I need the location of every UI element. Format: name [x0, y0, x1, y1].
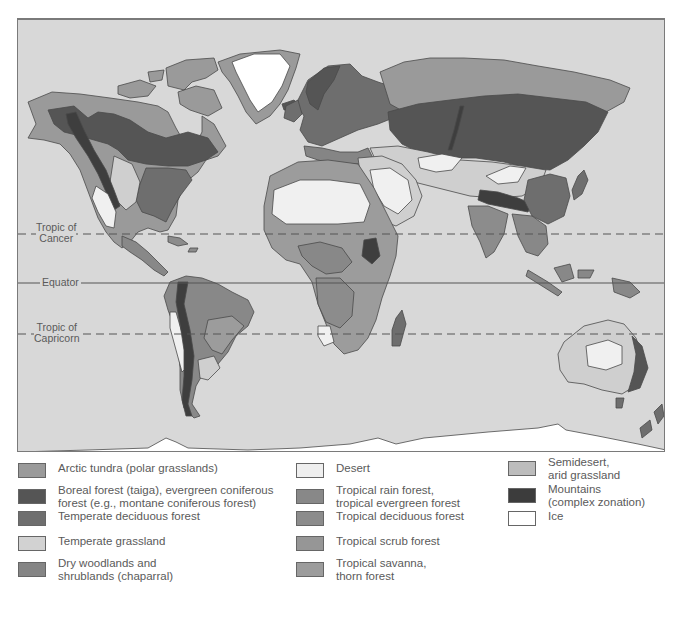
- swatch-arctic-tundra: [18, 463, 46, 478]
- antarctica: [18, 424, 665, 452]
- legend-semidesert: Semidesert, arid grassland: [508, 456, 620, 481]
- legend-tropical-scrub-forest: Tropical scrub forest: [296, 535, 440, 551]
- world-biome-map: Tropic of Cancer Equator Tropic of Capri…: [17, 18, 665, 452]
- legend-boreal-forest: Boreal forest (taiga), evergreen conifer…: [18, 484, 273, 509]
- swatch-boreal-forest: [18, 489, 46, 504]
- swatch-tropical-rain-forest: [296, 489, 324, 504]
- equator-label: Equator: [40, 277, 81, 288]
- legend-temperate-grassland: Temperate grassland: [18, 535, 165, 551]
- australia-desert: [586, 340, 622, 370]
- legend-arctic-tundra: Arctic tundra (polar grasslands): [18, 462, 218, 478]
- swatch-temperate-deciduous-forest: [18, 511, 46, 526]
- legend-tropical-deciduous-forest: Tropical deciduous forest: [296, 510, 464, 526]
- legend-dry-woodlands: Dry woodlands and shrublands (chaparral): [18, 557, 173, 582]
- japan: [572, 170, 588, 200]
- map-svg: [18, 20, 665, 452]
- legend-tropical-savanna: Tropical savanna, thorn forest: [296, 557, 426, 582]
- caribbean: [168, 236, 198, 252]
- new-zealand: [640, 404, 664, 438]
- india: [468, 206, 508, 258]
- tropic-of-cancer-label: Tropic of Cancer: [36, 222, 76, 244]
- central-america: [122, 236, 168, 276]
- legend-desert: Desert: [296, 462, 370, 478]
- tasmania: [616, 398, 624, 408]
- indonesia: [526, 264, 594, 296]
- swatch-tropical-savanna: [296, 562, 324, 577]
- swatch-desert: [296, 463, 324, 478]
- swatch-ice: [508, 511, 536, 526]
- swatch-dry-woodlands: [18, 562, 46, 577]
- legend-temperate-deciduous-forest: Temperate deciduous forest: [18, 510, 200, 526]
- legend-ice: Ice: [508, 510, 563, 526]
- swatch-tropical-scrub-forest: [296, 536, 324, 551]
- swatch-mountains: [508, 488, 536, 503]
- swatch-temperate-grassland: [18, 536, 46, 551]
- legend-tropical-rain-forest: Tropical rain forest, tropical evergreen…: [296, 484, 460, 509]
- legend-mountains: Mountains (complex zonation): [508, 483, 645, 508]
- tropic-of-capricorn-label: Tropic of Capricorn: [34, 322, 80, 344]
- sahara: [272, 180, 370, 224]
- swatch-tropical-deciduous-forest: [296, 511, 324, 526]
- madagascar: [392, 310, 406, 346]
- swatch-semidesert: [508, 461, 536, 476]
- new-guinea: [612, 278, 640, 298]
